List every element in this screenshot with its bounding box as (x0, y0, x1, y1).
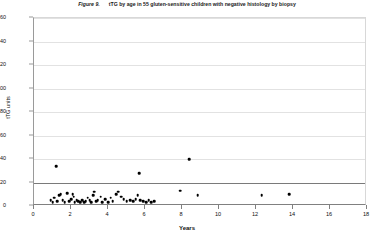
y-axis-tick-label: 100 (0, 85, 6, 91)
figure-number: Figure 9. (78, 1, 100, 7)
x-axis-tick-label: 12 (243, 211, 267, 218)
x-axis-tick-mark (107, 205, 108, 209)
gridline (34, 159, 365, 160)
data-point (70, 198, 73, 201)
data-point (53, 196, 56, 199)
x-axis-tick-mark (181, 205, 182, 209)
y-axis-tick-label: 80 (0, 108, 6, 114)
data-point (90, 201, 93, 204)
x-axis-tick-mark (218, 205, 219, 209)
data-point (99, 195, 102, 198)
x-axis-tick-label: 2 (58, 211, 82, 218)
data-point (136, 194, 139, 197)
plot-area (33, 17, 366, 205)
data-point (115, 193, 118, 196)
data-point (260, 194, 263, 197)
data-point (153, 200, 156, 203)
reference-line (34, 183, 365, 184)
gridline (34, 112, 365, 113)
data-point (72, 195, 75, 198)
data-point (101, 201, 104, 204)
data-point (55, 165, 58, 168)
x-axis-tick-mark (255, 205, 256, 209)
data-point (60, 193, 63, 196)
data-point (288, 193, 291, 196)
data-point (51, 201, 54, 204)
data-point (111, 200, 114, 203)
y-axis-tick-label: 40 (0, 155, 6, 161)
x-axis-tick-label: 18 (354, 211, 374, 218)
data-point (97, 199, 100, 202)
data-point (66, 192, 69, 195)
gridline (34, 65, 365, 66)
data-point (134, 198, 137, 201)
gridline (34, 42, 365, 43)
data-point (63, 201, 66, 204)
gridline (34, 136, 365, 137)
data-point (107, 201, 110, 204)
x-axis-tick-mark (33, 205, 34, 209)
data-point (109, 196, 112, 199)
data-point (68, 200, 71, 203)
y-axis-tick-label: 120 (0, 61, 6, 67)
data-point (104, 198, 107, 201)
data-point (92, 194, 95, 197)
data-point (196, 194, 199, 197)
data-point (138, 172, 141, 175)
x-axis-tick-mark (329, 205, 330, 209)
x-axis-tick-label: 4 (95, 211, 119, 218)
data-point (85, 200, 88, 203)
x-axis-title: Years (0, 224, 374, 232)
data-point (73, 201, 76, 204)
y-axis-tick-label: 160 (0, 14, 6, 20)
data-point (145, 201, 148, 204)
y-axis-tick-label: 0 (0, 202, 6, 208)
x-axis-tick-label: 10 (206, 211, 230, 218)
y-axis-tick-label: 140 (0, 38, 6, 44)
x-axis-tick-mark (366, 205, 367, 209)
data-point (79, 201, 82, 204)
x-axis-tick-label: 16 (317, 211, 341, 218)
figure-scatter-plot: Figure 9.tTG by age in 55 gluten-sensiti… (0, 0, 374, 240)
x-axis-tick-mark (292, 205, 293, 209)
x-axis-tick-label: 6 (132, 211, 156, 218)
y-axis-tick-label: 20 (0, 179, 6, 185)
data-point (179, 189, 182, 192)
figure-caption: Figure 9.tTG by age in 55 gluten-sensiti… (0, 0, 374, 9)
x-axis-tick-label: 0 (21, 211, 45, 218)
gridline (34, 18, 365, 19)
data-point (132, 200, 135, 203)
data-point (56, 200, 59, 203)
x-axis-tick-label: 14 (280, 211, 304, 218)
x-axis-tick-mark (70, 205, 71, 209)
gridline (34, 89, 365, 90)
data-point (188, 158, 191, 161)
data-point (93, 191, 96, 194)
x-axis-tick-label: 8 (169, 211, 193, 218)
x-axis-tick-mark (144, 205, 145, 209)
figure-caption-text: tTG by age in 55 gluten-sensitive childr… (109, 1, 296, 7)
data-point (125, 200, 128, 203)
data-point (117, 191, 120, 194)
y-axis-tick-label: 60 (0, 132, 6, 138)
